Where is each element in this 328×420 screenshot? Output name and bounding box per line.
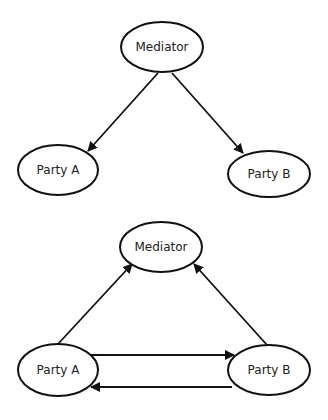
mediator-label: Mediator [134,240,187,254]
party-a-label: Party A [37,363,81,377]
party-a-label: Party A [37,163,81,177]
node-party-b: Party B [228,345,310,395]
edge-party-a-to-mediator [58,264,132,344]
node-party-a: Party A [18,145,98,195]
edge-mediator-to-party-a [88,73,158,151]
node-mediator: Mediator [121,22,203,72]
top-diagram: Mediator Party A Party B [18,22,310,197]
party-b-label: Party B [248,363,291,377]
edge-party-b-to-mediator [194,264,267,345]
node-mediator: Mediator [120,222,202,272]
node-party-b: Party B [228,151,310,197]
node-party-a: Party A [18,344,98,396]
edge-mediator-to-party-b [172,73,243,153]
bottom-diagram: Mediator Party A Party B [18,222,310,396]
mediator-label: Mediator [135,40,188,54]
mediation-diagram: Mediator Party A Party B Mediator Party … [0,0,328,420]
party-b-label: Party B [248,167,291,181]
